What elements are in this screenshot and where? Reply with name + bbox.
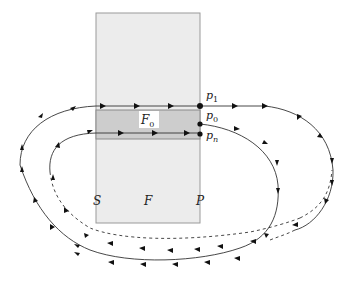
flow-diagram: p1 p0 pn F0 S F P <box>0 0 350 281</box>
point-p1 <box>197 103 203 109</box>
label-p: P <box>195 194 205 208</box>
label-pn: pn <box>206 129 218 144</box>
label-s: S <box>93 194 101 208</box>
label-p1: p1 <box>206 89 218 104</box>
point-p0 <box>197 121 202 126</box>
label-p0: p0 <box>206 109 218 124</box>
point-pn <box>197 131 202 136</box>
label-f: F <box>143 194 153 208</box>
